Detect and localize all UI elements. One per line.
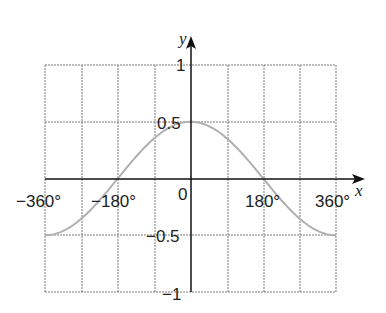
x-tick-360: 360° xyxy=(315,192,350,211)
x-axis-label: x xyxy=(354,181,363,200)
y-tick-neg05: −0.5 xyxy=(146,227,180,246)
x-tick-neg360: −360° xyxy=(16,192,61,211)
y-tick-neg1: −1 xyxy=(162,285,181,304)
origin-label: 0 xyxy=(178,185,187,204)
y-tick-1: 1 xyxy=(176,56,185,75)
y-tick-05: 0.5 xyxy=(157,114,181,133)
y-axis-label: y xyxy=(177,29,187,48)
x-tick-neg180: −180° xyxy=(91,192,136,211)
axes xyxy=(45,44,358,292)
chart: y x −360° −180° 0 180° 360° 1 0.5 −0.5 −… xyxy=(0,0,386,313)
x-tick-180: 180° xyxy=(245,192,280,211)
